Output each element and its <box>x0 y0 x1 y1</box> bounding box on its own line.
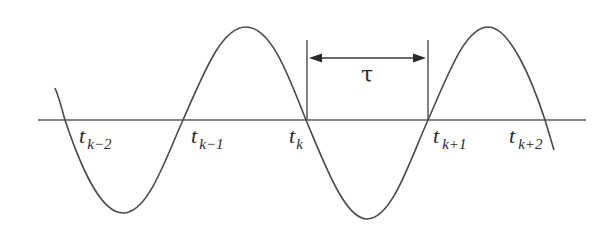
label-t-k-plus-1: tk+1 <box>433 123 466 152</box>
label-t-k-plus-2: tk+2 <box>509 123 543 152</box>
label-t-k: tk <box>289 123 303 152</box>
label-t-k-minus-1: tk−1 <box>191 123 223 152</box>
tau-label: τ <box>361 62 373 87</box>
label-t-k-minus-2: tk−2 <box>79 123 112 152</box>
sine-wave <box>55 27 554 219</box>
sine-zero-crossing-diagram: τ tk−2 tk−1 tk tk+1 tk+2 <box>0 0 614 236</box>
